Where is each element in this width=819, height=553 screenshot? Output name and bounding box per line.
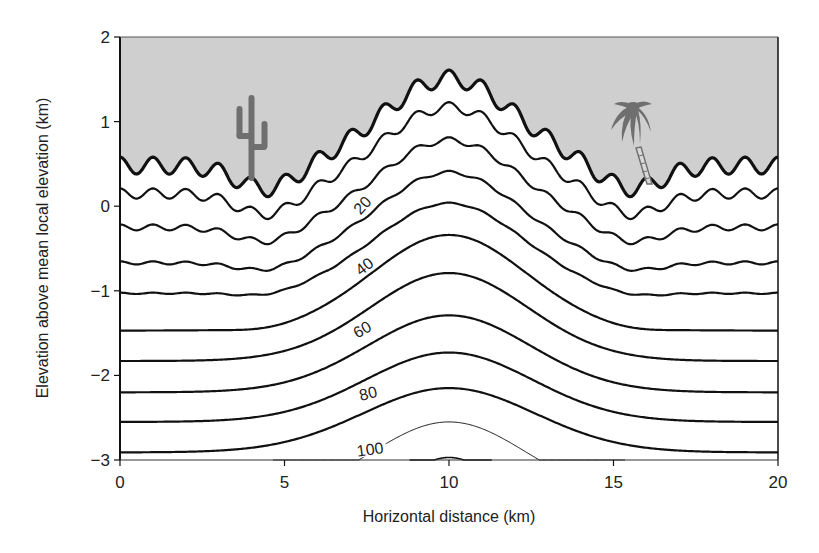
x-axis-title: Horizontal distance (km) <box>363 508 536 525</box>
y-tick-label: 2 <box>101 28 110 47</box>
y-tick-label: −2 <box>91 366 110 385</box>
sky-region <box>120 37 778 197</box>
x-tick-label: 15 <box>604 473 623 492</box>
sky-fill <box>120 37 778 197</box>
contour-chart: 20406080100 05101520−3−2−1012 Horizontal… <box>0 0 819 553</box>
svg-text:40: 40 <box>352 254 377 278</box>
isotherm-30-line <box>120 171 778 271</box>
y-tick-label: 1 <box>101 113 110 132</box>
isotherm-60-line <box>120 273 778 361</box>
isotherm-40-line <box>120 203 778 296</box>
isotherm-label-80: 80 <box>355 381 382 404</box>
x-tick-label: 20 <box>769 473 788 492</box>
isotherm-label-20: 20 <box>348 190 377 219</box>
geotherm-figure: 20406080100 05101520−3−2−1012 Horizontal… <box>0 0 819 553</box>
y-tick-label: −3 <box>91 451 110 470</box>
isotherm-label-40: 40 <box>349 252 378 280</box>
y-axis-title: Elevation above mean local elevation (km… <box>34 98 51 399</box>
y-tick-label: 0 <box>101 197 110 216</box>
svg-text:100: 100 <box>356 439 385 460</box>
isotherm-70-line <box>120 315 778 392</box>
y-tick-label: −1 <box>91 282 110 301</box>
isotherm-labels: 20406080100 <box>348 190 388 460</box>
x-tick-label: 5 <box>280 473 289 492</box>
x-tick-label: 0 <box>115 473 124 492</box>
isotherm-label-100: 100 <box>353 438 388 460</box>
isotherm-100-line <box>273 422 625 460</box>
x-tick-label: 10 <box>440 473 459 492</box>
